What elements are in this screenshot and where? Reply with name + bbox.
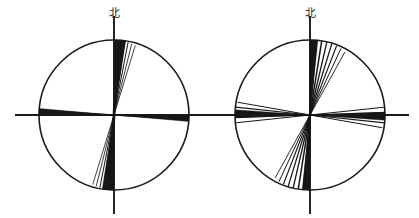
rose-panel-1: 北: [211, 7, 409, 214]
rose-diagram-canvas: 北北: [0, 0, 419, 218]
rose-diagram-figure: 北北: [0, 0, 419, 218]
north-label: 北: [305, 7, 316, 20]
north-label: 北: [109, 7, 120, 20]
rose-panel-0: 北: [15, 7, 213, 214]
